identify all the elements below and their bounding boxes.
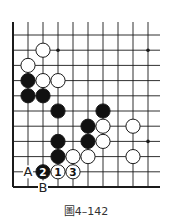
point-label-b: B xyxy=(39,180,48,195)
go-board: AB 213 xyxy=(0,0,172,200)
black-stone xyxy=(51,134,65,148)
move-number: 2 xyxy=(39,166,46,178)
star-point xyxy=(146,48,150,52)
white-stone xyxy=(126,150,140,164)
white-stone-3: 3 xyxy=(66,165,80,179)
white-stone-1: 1 xyxy=(51,165,65,179)
white-stone xyxy=(96,134,110,148)
black-stone xyxy=(21,89,35,103)
white-stone xyxy=(66,150,80,164)
black-stone xyxy=(51,104,65,118)
black-stone xyxy=(96,104,110,118)
move-number: 1 xyxy=(54,166,61,178)
black-stone xyxy=(81,119,95,133)
white-stone xyxy=(96,119,110,133)
black-stone xyxy=(51,150,65,164)
white-stone xyxy=(51,74,65,88)
black-stone-2: 2 xyxy=(36,165,50,179)
white-stone xyxy=(21,58,35,72)
star-point xyxy=(146,140,150,144)
black-stone xyxy=(81,134,95,148)
black-stone xyxy=(21,74,35,88)
move-number: 3 xyxy=(69,166,76,178)
star-point xyxy=(56,48,60,52)
white-stone xyxy=(36,74,50,88)
black-stone xyxy=(36,89,50,103)
white-stone xyxy=(36,43,50,57)
white-stone xyxy=(126,119,140,133)
figure-caption: 圖4–142 xyxy=(0,202,172,218)
white-stone xyxy=(81,150,95,164)
point-label-a: A xyxy=(24,164,33,179)
